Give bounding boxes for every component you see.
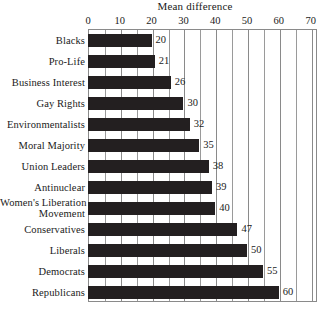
category-label-line: Union Leaders (0, 161, 85, 172)
category-label-line: Moral Majority (0, 140, 85, 151)
category-label: Republicans (0, 287, 85, 298)
value-label: 32 (194, 118, 205, 130)
category-label: Environmentalists (0, 119, 85, 130)
category-label: Pro-Life (0, 56, 85, 67)
category-label: Business Interest (0, 77, 85, 88)
value-label: 47 (241, 223, 252, 235)
x-tick-label-30: 30 (178, 14, 189, 28)
value-label: 39 (216, 181, 227, 193)
category-label: Gay Rights (0, 98, 85, 109)
category-label: Union Leaders (0, 161, 85, 172)
x-tick-label-20: 20 (146, 14, 157, 28)
category-label-line: Antinuclear (0, 182, 85, 193)
x-tick-label-60: 60 (274, 14, 285, 28)
category-label-line: Conservatives (0, 224, 85, 235)
value-label: 38 (213, 160, 224, 172)
category-label-line: Movement (0, 208, 85, 219)
category-label-line: Liberals (0, 245, 85, 256)
value-label: 21 (159, 55, 170, 67)
category-label-line: Women's Liberation (0, 197, 85, 208)
category-label-line: Democrats (0, 266, 85, 277)
x-tick-label-10: 10 (115, 14, 126, 28)
category-label: Antinuclear (0, 182, 85, 193)
category-label: Liberals (0, 245, 85, 256)
category-label: Conservatives (0, 224, 85, 235)
category-label: Moral Majority (0, 140, 85, 151)
category-label-line: Republicans (0, 287, 85, 298)
category-label: Women's LiberationMovement (0, 197, 85, 219)
value-label: 40 (219, 202, 230, 214)
x-tick-label-0: 0 (85, 14, 90, 28)
bar-chart: Mean difference 010203040506070 BlacksPr… (0, 0, 327, 309)
category-label-line: Gay Rights (0, 98, 85, 109)
x-axis-tick-labels: 010203040506070 (0, 14, 327, 28)
value-label: 20 (156, 34, 167, 46)
x-tick-label-40: 40 (210, 14, 221, 28)
category-label: Democrats (0, 266, 85, 277)
value-label: 35 (203, 139, 214, 151)
category-label-line: Blacks (0, 35, 85, 46)
chart-title: Mean difference (130, 0, 260, 12)
x-tick-label-70: 70 (305, 14, 316, 28)
value-label: 55 (267, 265, 278, 277)
category-label-line: Environmentalists (0, 119, 85, 130)
value-label: 60 (283, 286, 294, 298)
category-label: Blacks (0, 35, 85, 46)
category-label-line: Business Interest (0, 77, 85, 88)
value-label: 50 (251, 244, 262, 256)
value-label: 30 (187, 97, 198, 109)
y-axis-category-labels: BlacksPro-LifeBusiness InterestGay Right… (0, 29, 85, 302)
value-label: 26 (175, 76, 186, 88)
category-label-line: Pro-Life (0, 56, 85, 67)
bar-value-labels: 20212630323538394047505560 (88, 29, 327, 302)
x-tick-label-50: 50 (242, 14, 253, 28)
